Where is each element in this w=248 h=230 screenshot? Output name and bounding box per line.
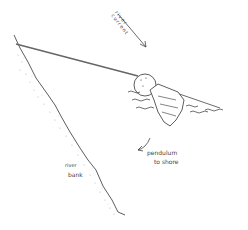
- swimmer-body: [150, 84, 184, 126]
- river-rescue-illustration: river current pendulum to shore river ba…: [0, 0, 248, 230]
- pendulum-label: pendulum to shore: [147, 150, 179, 168]
- bank-stipple: [18, 55, 115, 215]
- rope: [16, 44, 138, 76]
- river-bank-label: river bank: [65, 163, 83, 178]
- river-bank-line: [14, 35, 125, 215]
